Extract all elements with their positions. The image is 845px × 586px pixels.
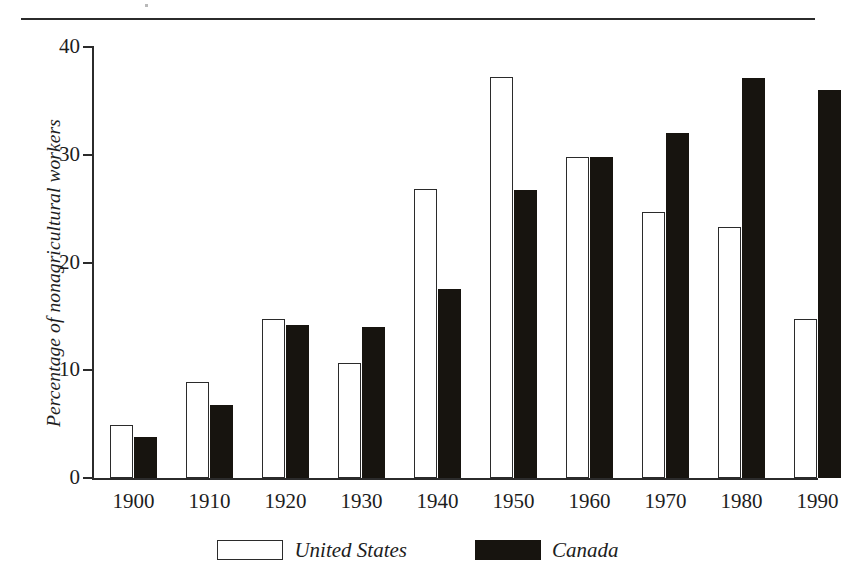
y-axis-tick-label: 10 — [40, 359, 80, 380]
x-axis-tick-label-1920: 1920 — [248, 489, 324, 513]
y-axis-tick-label-wrap: 30 — [22, 144, 80, 165]
y-axis-tick-mark — [83, 46, 92, 48]
x-axis-tick-label-1970: 1970 — [628, 489, 704, 513]
chart-legend: United States Canada — [0, 533, 836, 567]
y-axis-tick-mark — [83, 477, 92, 479]
legend-item-canada[interactable]: Canada — [475, 540, 619, 561]
x-axis-tick-label-1950: 1950 — [476, 489, 552, 513]
top-horizontal-rule — [21, 18, 815, 20]
y-axis-tick-label: 40 — [40, 36, 80, 57]
bar-canada-1910 — [210, 405, 233, 478]
y-axis-tick-mark — [83, 154, 92, 156]
legend-swatch-canada-icon — [475, 540, 541, 560]
bar-canada-1920 — [286, 325, 309, 478]
bar-united-states-1960 — [566, 157, 589, 478]
bar-canada-1970 — [666, 133, 689, 478]
legend-swatch-united-states-icon — [217, 540, 283, 560]
x-axis-tick-label-1960: 1960 — [552, 489, 628, 513]
legend-label-united-states: United States — [294, 540, 407, 561]
bar-canada-1900 — [134, 437, 157, 478]
y-axis-tick-label: 20 — [40, 252, 80, 273]
x-axis-tick-label-1910: 1910 — [172, 489, 248, 513]
y-axis-tick-label: 30 — [40, 144, 80, 165]
scan-artifact-speck — [145, 4, 148, 7]
x-axis-tick-label-1930: 1930 — [324, 489, 400, 513]
bar-united-states-1940 — [414, 189, 437, 478]
legend-item-united-states[interactable]: United States — [217, 540, 407, 561]
bar-canada-1930 — [362, 327, 385, 478]
bar-united-states-1980 — [718, 227, 741, 478]
y-axis-line — [92, 46, 94, 479]
bar-canada-1980 — [742, 78, 765, 478]
x-axis-tick-label-1990: 1990 — [780, 489, 845, 513]
bar-united-states-1900 — [110, 425, 133, 478]
bar-united-states-1970 — [642, 212, 665, 478]
bar-canada-1950 — [514, 190, 537, 478]
y-axis-tick-mark — [83, 369, 92, 371]
bar-canada-1990 — [818, 90, 841, 478]
y-axis-tick-label-wrap: 0 — [22, 467, 80, 488]
bar-united-states-1920 — [262, 319, 285, 478]
y-axis-tick-label-wrap: 20 — [22, 252, 80, 273]
y-axis-tick-label: 0 — [40, 467, 80, 488]
x-axis-tick-label-1980: 1980 — [704, 489, 780, 513]
x-axis-tick-label-1940: 1940 — [400, 489, 476, 513]
bar-canada-1960 — [590, 157, 613, 478]
y-axis-tick-label-wrap: 40 — [22, 36, 80, 57]
bar-canada-1940 — [438, 289, 461, 478]
y-axis-tick-mark — [83, 262, 92, 264]
bar-united-states-1930 — [338, 363, 361, 478]
bar-united-states-1910 — [186, 382, 209, 478]
legend-label-canada: Canada — [552, 540, 619, 561]
bar-united-states-1990 — [794, 319, 817, 478]
bar-united-states-1950 — [490, 77, 513, 478]
x-axis-line — [92, 478, 818, 480]
x-axis-tick-label-1900: 1900 — [96, 489, 172, 513]
y-axis-tick-label-wrap: 10 — [22, 359, 80, 380]
